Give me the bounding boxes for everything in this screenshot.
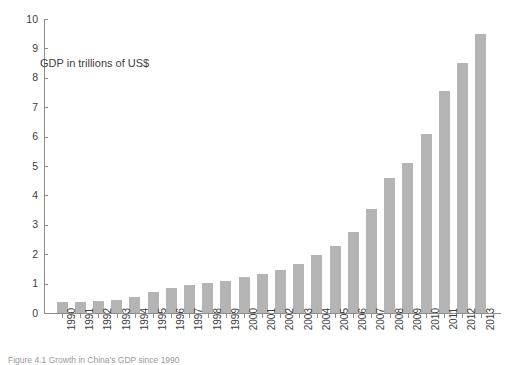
x-axis-tick-label: 1991 — [85, 308, 95, 348]
x-axis-tick-label: 2005 — [340, 308, 350, 348]
y-axis-tick — [44, 78, 48, 79]
x-axis-tick — [462, 314, 463, 318]
bar — [275, 270, 286, 313]
bar — [384, 178, 395, 313]
y-axis-tick — [44, 284, 48, 285]
y-axis-tick-label: 1 — [0, 278, 38, 289]
y-axis-tick — [44, 107, 48, 108]
y-axis-tick-label-text: 1 — [4, 278, 38, 289]
x-axis-tick-label: 2013 — [486, 308, 496, 348]
y-axis-tick-label-text: 3 — [4, 219, 38, 230]
x-axis-tick — [317, 314, 318, 318]
y-axis-tick-label: 9 — [0, 43, 38, 54]
x-axis-tick-label: 2004 — [322, 308, 332, 348]
x-axis-tick-label: 1996 — [176, 308, 186, 348]
x-axis-tick-label: 2012 — [467, 308, 477, 348]
x-axis-tick-label: 2000 — [249, 308, 259, 348]
bar — [402, 163, 413, 313]
bar — [330, 246, 341, 313]
y-axis-tick-label: 8 — [0, 72, 38, 83]
y-axis-tick-label: 5 — [0, 161, 38, 172]
x-axis-tick — [171, 314, 172, 318]
bar — [475, 34, 486, 313]
chart-annotation: GDP in trillions of US$ — [40, 57, 149, 69]
y-axis-tick-label-text: 8 — [4, 72, 38, 83]
x-axis-tick — [62, 314, 63, 318]
y-axis-tick-label: 2 — [0, 249, 38, 260]
y-axis-tick-label: 0 — [0, 308, 38, 319]
figure-caption: Figure 4.1 Growth in China's GDP since 1… — [8, 356, 308, 365]
y-axis-tick-label-text: 5 — [4, 161, 38, 172]
x-axis-tick — [280, 314, 281, 318]
x-axis-tick — [153, 314, 154, 318]
y-axis-tick-label: 3 — [0, 219, 38, 230]
x-axis-tick — [353, 314, 354, 318]
x-axis-tick — [371, 314, 372, 318]
y-axis-tick-label: 4 — [0, 190, 38, 201]
x-axis-tick — [390, 314, 391, 318]
x-axis-tick-label: 2010 — [431, 308, 441, 348]
x-axis-tick — [98, 314, 99, 318]
y-axis-tick — [44, 313, 48, 314]
x-axis-tick-label: 2002 — [285, 308, 295, 348]
x-axis-tick — [117, 314, 118, 318]
y-axis-tick-label-text: 4 — [4, 190, 38, 201]
y-axis-tick-label-text: 7 — [4, 102, 38, 113]
y-axis-tick — [44, 166, 48, 167]
x-axis-tick-label: 2006 — [358, 308, 368, 348]
y-axis-tick-label-text: 10 — [4, 14, 38, 25]
x-axis-tick — [135, 314, 136, 318]
y-axis-tick-label-text: 9 — [4, 43, 38, 54]
x-axis-tick-label: 1999 — [231, 308, 241, 348]
x-axis-tick — [299, 314, 300, 318]
x-axis-tick-label: 2001 — [267, 308, 277, 348]
x-axis-tick-label: 2007 — [376, 308, 386, 348]
y-axis-tick — [44, 254, 48, 255]
y-axis-tick — [44, 19, 48, 20]
x-axis-tick-label: 1990 — [67, 308, 77, 348]
x-axis-tick — [408, 314, 409, 318]
x-axis-tick — [244, 314, 245, 318]
x-axis-tick-label: 2009 — [413, 308, 423, 348]
x-axis-tick-label: 1998 — [213, 308, 223, 348]
x-axis-tick — [80, 314, 81, 318]
x-axis-tick — [262, 314, 263, 318]
y-axis-tick-label: 6 — [0, 131, 38, 142]
x-axis-tick — [426, 314, 427, 318]
x-axis-tick-label: 1993 — [122, 308, 132, 348]
bar — [457, 63, 468, 313]
bar — [311, 255, 322, 313]
x-axis-tick-label: 1992 — [103, 308, 113, 348]
bar — [293, 264, 304, 313]
y-axis-tick — [44, 137, 48, 138]
y-axis-tick-label: 7 — [0, 102, 38, 113]
x-axis-tick — [226, 314, 227, 318]
x-axis-tick — [481, 314, 482, 318]
y-axis-tick — [44, 225, 48, 226]
x-axis-tick — [335, 314, 336, 318]
y-axis-tick — [44, 48, 48, 49]
bar — [421, 134, 432, 313]
chart-figure: 109876543210 199019911992199319941995199… — [0, 0, 515, 365]
x-axis-tick — [208, 314, 209, 318]
y-axis-tick-label-text: 0 — [4, 308, 38, 319]
y-axis-tick-label-text: 2 — [4, 249, 38, 260]
x-axis-tick-label: 2008 — [395, 308, 405, 348]
x-axis-tick-label: 1994 — [140, 308, 150, 348]
bar — [366, 209, 377, 313]
figure-caption-text: Figure 4.1 Growth in China's GDP since 1… — [8, 356, 180, 365]
y-axis-tick-label: 10 — [0, 14, 38, 25]
y-axis-tick — [44, 195, 48, 196]
bar — [348, 232, 359, 313]
y-axis-tick-label-text: 6 — [4, 131, 38, 142]
x-axis-tick-label: 2011 — [449, 308, 459, 348]
x-axis-tick-label: 1997 — [194, 308, 204, 348]
x-axis-tick — [189, 314, 190, 318]
bar — [439, 91, 450, 313]
x-axis-tick-label: 2003 — [304, 308, 314, 348]
x-axis-tick — [444, 314, 445, 318]
x-axis-tick-label: 1995 — [158, 308, 168, 348]
